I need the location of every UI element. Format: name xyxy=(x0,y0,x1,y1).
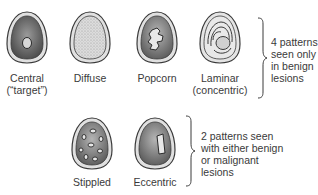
eccentric-icon xyxy=(135,118,175,169)
stippled-label: Stippled xyxy=(67,176,117,188)
brace-row1-icon xyxy=(258,18,267,98)
diffuse-icon xyxy=(70,12,110,63)
diffuse-label: Diffuse xyxy=(65,72,115,84)
brace-row2-icon xyxy=(186,116,195,186)
central-label: Central (“target”) xyxy=(2,72,52,96)
benign-or-malignant-note: 2 patterns seen with either benign or ma… xyxy=(201,130,283,178)
popcorn-label: Popcorn xyxy=(132,72,182,84)
eccentric-label: Eccentric xyxy=(130,176,180,188)
laminar-label: Laminar (concentric) xyxy=(190,72,250,96)
stippled-icon xyxy=(72,118,112,169)
popcorn-icon xyxy=(137,12,177,63)
laminar-concentric-icon xyxy=(200,12,240,63)
benign-only-note: 4 patterns seen only in benign lesions xyxy=(271,36,318,84)
central-target-icon xyxy=(7,12,47,63)
